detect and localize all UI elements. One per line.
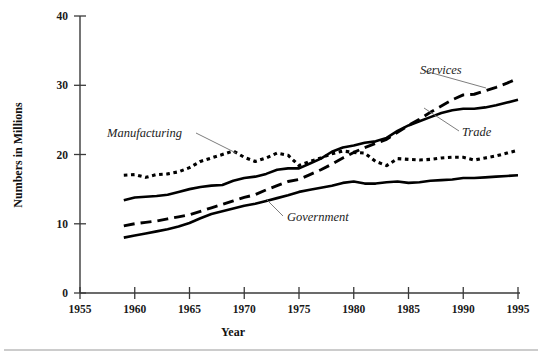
x-tick-label: 1990 <box>452 303 475 315</box>
series-label-services: Services <box>420 63 462 77</box>
line-chart-svg: 0 10 20 30 40 1955 1960 1965 1970 1975 1… <box>0 0 542 358</box>
x-tick-label: 1960 <box>123 303 146 315</box>
series-label-manufacturing: Manufacturing <box>106 126 182 140</box>
y-tick-label: 0 <box>62 287 68 299</box>
x-tick-label: 1975 <box>288 303 311 315</box>
x-tick-labels: 1955 1960 1965 1970 1975 1980 1985 1990 … <box>69 303 530 315</box>
series-label-trade: Trade <box>462 125 492 139</box>
y-tick-label: 30 <box>57 79 69 91</box>
y-tick-label: 20 <box>57 149 69 161</box>
x-tick-label: 1980 <box>342 303 365 315</box>
x-axis-title: Year <box>221 325 246 339</box>
chart-figure: 0 10 20 30 40 1955 1960 1965 1970 1975 1… <box>0 0 542 358</box>
y-tick-label: 10 <box>57 218 69 230</box>
y-tick-label: 40 <box>57 10 69 22</box>
y-axis-title: Numbers in Millions <box>11 102 25 208</box>
x-tick-label: 1970 <box>233 303 256 315</box>
series-label-government: Government <box>287 210 349 224</box>
x-tick-label: 1985 <box>397 303 420 315</box>
x-tick-label: 1995 <box>507 303 530 315</box>
x-tick-label: 1955 <box>69 303 92 315</box>
x-tick-label: 1965 <box>178 303 201 315</box>
